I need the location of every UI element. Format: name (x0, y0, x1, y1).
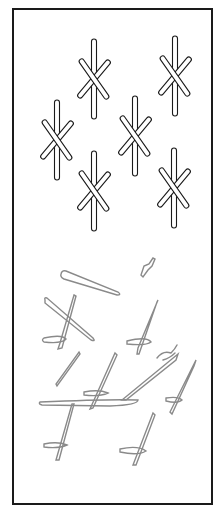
copy-drawing (39, 258, 196, 465)
figure-drawing (0, 0, 220, 513)
asterisk-3 (40, 100, 75, 180)
asterisk-5 (77, 151, 112, 231)
asterisk-6 (157, 148, 192, 228)
stimulus-asterisks (40, 36, 193, 231)
asterisk-1 (77, 39, 112, 119)
asterisk-2 (158, 36, 193, 116)
asterisk-4 (118, 96, 153, 176)
